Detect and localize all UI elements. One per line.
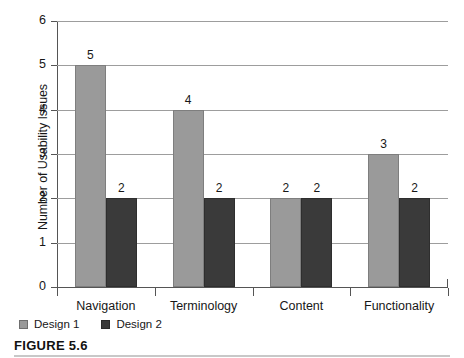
x-axis-label-functionality: Functionality <box>350 299 448 313</box>
plot-area: 52422232 <box>57 21 448 287</box>
bar-value-label: 2 <box>270 181 301 195</box>
bar-value-label: 2 <box>204 181 235 195</box>
y-axis-tick-label: 1 <box>26 236 46 249</box>
bar-terminology-design-2 <box>204 198 235 287</box>
figure-caption: FIGURE 5.6 <box>14 338 88 353</box>
bar-navigation-design-2 <box>106 198 137 287</box>
legend-item-design-2: Design 2 <box>101 318 161 330</box>
gridline <box>57 110 448 111</box>
bar-value-label: 3 <box>368 137 399 151</box>
chart-legend: Design 1Design 2 <box>19 318 162 330</box>
bar-value-label: 2 <box>106 181 137 195</box>
x-axis-tick-mark <box>253 288 254 296</box>
bar-value-label: 5 <box>75 48 106 62</box>
bar-functionality-design-2 <box>399 198 430 287</box>
gridline <box>57 65 448 66</box>
legend-swatch-icon <box>19 320 28 329</box>
bar-functionality-design-1 <box>368 154 399 287</box>
y-axis-tick-label: 2 <box>26 191 46 204</box>
caption-divider <box>14 355 450 357</box>
y-axis-tick-label: 6 <box>26 14 46 27</box>
bar-navigation-design-1 <box>75 65 106 287</box>
bar-value-label: 2 <box>399 181 430 195</box>
x-axis-label-navigation: Navigation <box>57 299 155 313</box>
y-axis-tick-label: 4 <box>26 103 46 116</box>
x-axis-label-content: Content <box>253 299 351 313</box>
bar-value-label: 2 <box>301 181 332 195</box>
legend-swatch-icon <box>101 320 110 329</box>
x-axis-tick-mark <box>57 288 58 296</box>
bar-terminology-design-1 <box>173 110 204 287</box>
legend-label: Design 1 <box>34 318 79 330</box>
x-axis-tick-mark <box>155 288 156 296</box>
bar-content-design-2 <box>301 198 332 287</box>
legend-label: Design 2 <box>116 318 161 330</box>
y-axis-tick-label: 0 <box>26 280 46 293</box>
y-axis-tick-label: 3 <box>26 147 46 160</box>
bar-content-design-1 <box>270 198 301 287</box>
x-axis-tick-mark <box>448 288 449 296</box>
bar-value-label: 4 <box>173 93 204 107</box>
x-axis-label-terminology: Terminology <box>155 299 253 313</box>
bar-chart: Number of Usability Issues 0123456 52422… <box>0 0 464 312</box>
gridline <box>57 21 448 22</box>
x-axis-tick-mark <box>350 288 351 296</box>
y-axis-tick-label: 5 <box>26 58 46 71</box>
legend-item-design-1: Design 1 <box>19 318 79 330</box>
figure-container: Number of Usability Issues 0123456 52422… <box>0 0 464 358</box>
